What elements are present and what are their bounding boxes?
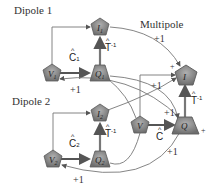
gain-label-dipole1: +1 [70, 84, 81, 95]
node-i: I [175, 65, 197, 85]
svg-text:Q: Q [181, 121, 188, 131]
gain-label-right: +1 [164, 107, 175, 118]
node-i1: I1 [91, 18, 109, 35]
operator-t-inverse: ^T-1 [191, 95, 202, 106]
node-q2: Q2 [90, 151, 110, 167]
gain-label-lower: +1 [167, 146, 178, 157]
node-q1: Q1 [90, 65, 110, 81]
gain-label-top: +1 [154, 33, 165, 44]
operator-c: ^C [156, 131, 163, 142]
multipole-title: Multipole [140, 18, 183, 30]
node-q: Q [172, 117, 199, 134]
edge-q1-v [108, 79, 136, 118]
sum-sign-i: + [170, 62, 175, 71]
dipole2-title: Dipole 2 [12, 95, 50, 107]
operator-c2: ^C2 [69, 138, 80, 149]
edge-i1-i [110, 27, 180, 66]
edge-i2-i [108, 78, 176, 110]
gain-label-mid: +1 [151, 80, 162, 91]
operator-t2-inverse: ^T-1 [105, 128, 116, 139]
signal-flow-diagram: I1 V1 Q1 I2 V2 Q2 I [0, 0, 217, 195]
dipole1-title: Dipole 1 [14, 4, 52, 16]
operator-t1-inverse: ^T-1 [105, 42, 116, 53]
node-i2: I2 [91, 104, 109, 121]
node-v: V [131, 116, 149, 133]
sum-sign-q: + [201, 126, 206, 135]
operator-c1: ^C1 [69, 52, 80, 63]
node-v2: V2 [44, 150, 62, 167]
node-v1: V1 [43, 64, 61, 81]
gain-label-dipole2: +1 [73, 174, 84, 185]
